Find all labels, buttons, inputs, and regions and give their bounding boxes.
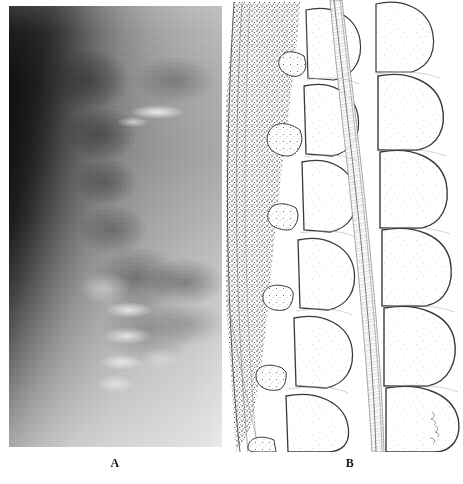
panel-b-line-drawing — [226, 0, 463, 452]
radiograph-film-grain — [9, 6, 222, 447]
spine-drawing-svg — [226, 0, 463, 452]
panel-a-caption: A — [105, 456, 125, 471]
panel-b-caption: B — [340, 456, 360, 471]
panel-a-radiograph — [9, 6, 222, 447]
figure-container: A B — [0, 0, 463, 484]
